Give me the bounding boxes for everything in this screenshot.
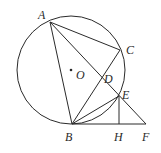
geometry-diagram: A C O D E B H F: [0, 0, 161, 153]
label-o: O: [76, 68, 85, 82]
center-dot-o: [70, 69, 73, 72]
segment-bc: [72, 50, 120, 124]
label-e: E: [121, 88, 130, 102]
label-d: D: [103, 72, 113, 86]
segment-ab: [50, 22, 72, 124]
segment-ac: [50, 22, 120, 50]
label-b: B: [65, 130, 73, 144]
segment-be: [72, 96, 119, 124]
label-a: A: [37, 8, 46, 22]
label-h: H: [113, 130, 124, 144]
label-f: F: [141, 130, 150, 144]
label-c: C: [126, 43, 135, 57]
